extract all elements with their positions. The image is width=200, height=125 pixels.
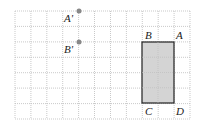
label-b: B [145,30,152,41]
point-marker [77,40,82,45]
grid-diagram [0,0,200,125]
point-marker [77,9,82,14]
label-a: A [176,30,183,41]
label-b-prime: B' [64,44,73,55]
label-a-prime: A' [64,13,73,24]
label-c: C [145,106,152,117]
label-d: D [176,106,184,117]
